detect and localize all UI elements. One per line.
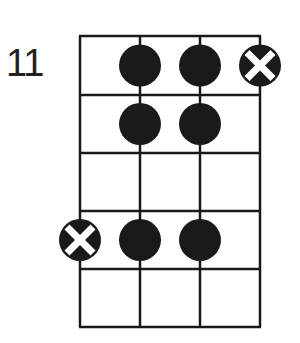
muted-string-x-icon [239, 45, 281, 87]
finger-dot [179, 219, 221, 261]
finger-dot [119, 219, 161, 261]
finger-dot [119, 103, 161, 145]
finger-dot [119, 45, 161, 87]
grid-lines [79, 36, 261, 327]
finger-dot [179, 45, 221, 87]
fretboard-grid [0, 0, 300, 343]
finger-dot [179, 103, 221, 145]
muted-string-x-icon [59, 219, 101, 261]
